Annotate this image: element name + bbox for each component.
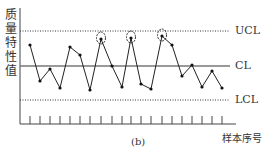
data-point	[110, 64, 113, 67]
data-point	[180, 74, 183, 77]
figure-caption: (b)	[131, 136, 145, 147]
data-point	[220, 86, 223, 89]
data-point	[190, 63, 193, 66]
x-axis-label: 样本序号	[222, 130, 262, 145]
ucl-label: UCL	[235, 24, 260, 37]
y-label-char: 量	[4, 22, 18, 36]
control-lines	[20, 31, 230, 100]
data-point	[88, 88, 91, 91]
data-point	[68, 45, 71, 48]
data-point	[28, 43, 31, 46]
data-point	[139, 82, 142, 85]
y-axis-label: 质 量 特 性 值	[4, 8, 18, 78]
data-series-line	[30, 36, 222, 90]
data-point	[200, 85, 203, 88]
x-axis-ticks	[30, 116, 222, 124]
data-point	[38, 79, 41, 82]
data-point	[160, 34, 163, 37]
y-label-char: 质	[4, 8, 18, 22]
cl-label: CL	[235, 59, 251, 72]
data-point	[58, 86, 61, 89]
y-label-char: 特	[4, 36, 18, 50]
data-point	[149, 87, 152, 90]
y-label-char: 性	[4, 50, 18, 64]
y-label-char: 值	[4, 64, 18, 78]
data-point	[170, 43, 173, 46]
data-point	[78, 53, 81, 56]
lcl-label: LCL	[235, 93, 258, 106]
data-point	[120, 85, 123, 88]
data-point	[99, 37, 102, 40]
data-point	[210, 69, 213, 72]
data-point	[129, 36, 132, 39]
data-point	[48, 67, 51, 70]
